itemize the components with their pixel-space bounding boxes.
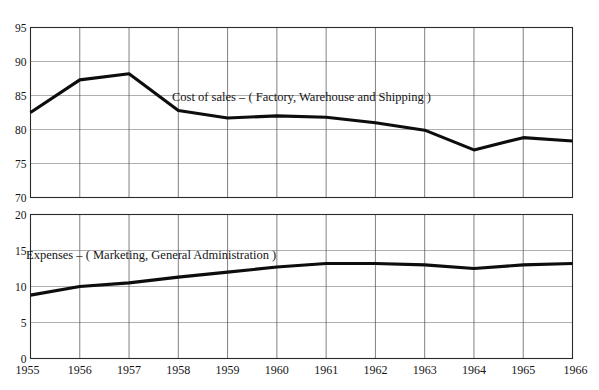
x-tick-label: 1961 [314, 363, 338, 377]
data-line-top [31, 74, 573, 150]
y-tick-label: 95 [15, 22, 27, 34]
x-tick-label: 1956 [68, 363, 92, 377]
x-axis-ticks: 1955195619571958195919601961196219631964… [16, 363, 588, 377]
x-tick-label: 1957 [117, 363, 141, 377]
x-tick-label: 1966 [564, 363, 588, 377]
y-tick-label: 5 [21, 317, 27, 329]
series-label-bottom: Expenses – ( Marketing, General Administ… [26, 248, 276, 262]
x-tick-label: 1955 [16, 363, 40, 377]
series-label-top: Cost of sales – ( Factory, Warehouse and… [172, 90, 431, 104]
chart-panel-top: 707580859095Cost of sales – ( Factory, W… [15, 22, 573, 204]
x-tick-label: 1958 [166, 363, 190, 377]
y-tick-label: 70 [15, 192, 27, 204]
y-tick-label: 90 [15, 56, 27, 68]
data-line-bottom [31, 263, 573, 295]
chart-canvas: 707580859095Cost of sales – ( Factory, W… [0, 0, 599, 390]
chart-figure: 707580859095Cost of sales – ( Factory, W… [0, 0, 599, 390]
y-tick-label: 75 [15, 158, 27, 170]
chart-panel-bottom: 05101520Expenses – ( Marketing, General … [15, 209, 573, 365]
x-tick-label: 1963 [413, 363, 437, 377]
x-tick-label: 1959 [216, 363, 240, 377]
y-tick-label: 85 [15, 90, 27, 102]
x-tick-label: 1960 [265, 363, 289, 377]
x-tick-label: 1965 [511, 363, 535, 377]
y-tick-label: 10 [15, 281, 27, 293]
y-tick-label: 15 [15, 245, 27, 257]
y-tick-label: 80 [15, 124, 27, 136]
y-tick-label: 20 [15, 209, 27, 221]
x-tick-label: 1964 [462, 363, 486, 377]
plot-frame [31, 28, 573, 198]
x-tick-label: 1962 [363, 363, 387, 377]
